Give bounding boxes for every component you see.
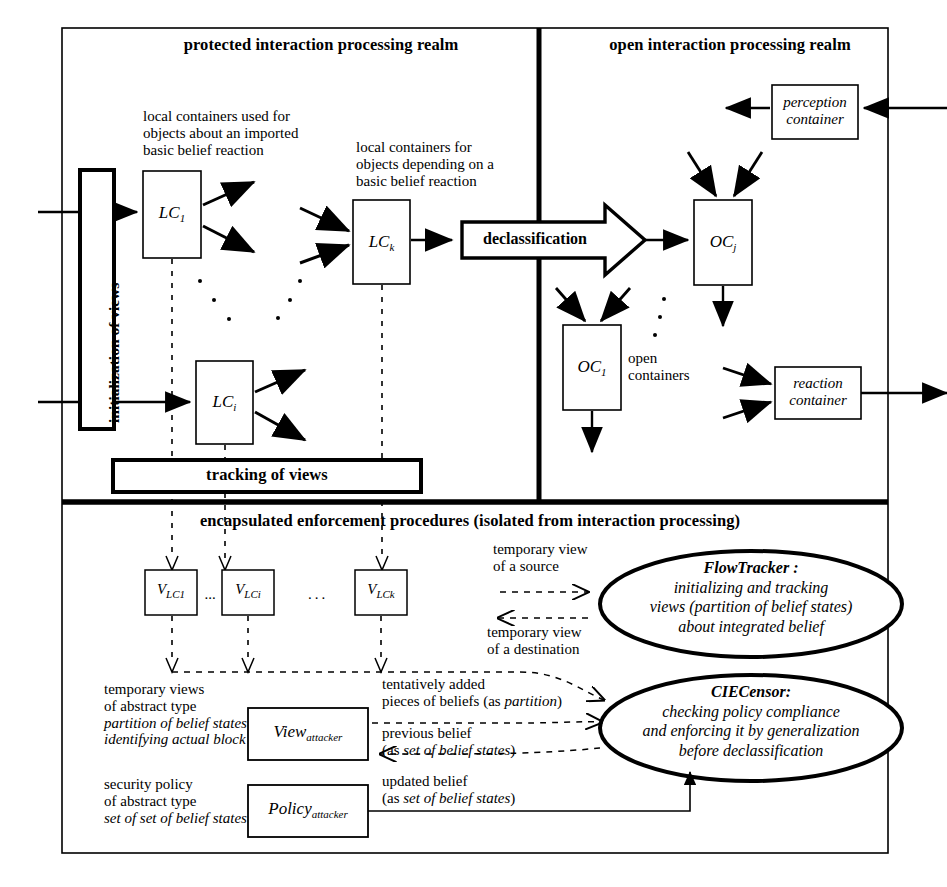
annotation-updated-belief: updated belief (as set of belief states) (382, 773, 612, 807)
arrowhead-vlc1-down (166, 658, 178, 672)
open-realm-title: open interaction processing realm (570, 36, 890, 54)
dot-decor-5 (288, 298, 292, 302)
label-policy-attacker: Policyattacker (248, 799, 368, 821)
label-vlci: VLCi (222, 581, 274, 600)
ellipsis-vlc-1: ... (198, 586, 222, 603)
arrow-into-oc1-right (601, 288, 630, 321)
arrowhead-lc1-view (166, 556, 178, 570)
arrowhead-vlck-down (375, 658, 387, 672)
initialization-of-views-label: initialization of views (105, 283, 122, 423)
label-lck: LCk (353, 232, 410, 254)
flowtracker-content: FlowTracker : initializing and tracking … (600, 558, 902, 636)
label-perception-container: perception container (772, 94, 858, 128)
dot-decor-2 (212, 298, 216, 302)
dot-decor-4 (298, 279, 302, 283)
annotation-local-containers-depending: local containers for objects depending o… (356, 139, 541, 189)
dot-decor-9 (653, 333, 657, 337)
annotation-previous-belief: previous belief (as set of belief states… (382, 725, 612, 759)
arrow-into-ocj-right (734, 152, 762, 196)
label-oc1: OC1 (563, 357, 621, 379)
declassification-label: declassification (470, 230, 600, 248)
annotation-open-containers: open containers (628, 350, 738, 384)
diagram-canvas: protected interaction processing realm o… (0, 0, 947, 887)
arrow-lci-out-lower (255, 412, 305, 440)
dot-decor-3 (227, 317, 231, 321)
arrow-lci-out-upper (255, 370, 305, 392)
arrow-into-oc1-left (556, 288, 585, 321)
arrow-into-ocj-left (688, 152, 716, 196)
arrow-into-reaction-lower (723, 402, 771, 418)
arrowhead-lck-view (376, 556, 388, 570)
dot-decor-7 (662, 297, 666, 301)
label-lc1: LC1 (143, 203, 201, 225)
arrow-into-lck-upper (300, 208, 349, 231)
ellipsis-vlc-2: ... (283, 586, 353, 603)
ciecensor-content: CIECensor: checking policy compliance an… (600, 682, 902, 760)
label-ocj: OCj (694, 232, 752, 254)
dot-decor-8 (658, 315, 662, 319)
label-vlc1: VLC1 (145, 581, 197, 600)
arrow-lc1-out-lower (203, 226, 254, 252)
protected-realm-title: protected interaction processing realm (171, 36, 471, 54)
annotation-tentatively-added: tentatively added pieces of beliefs (as … (382, 676, 622, 710)
arrow-lc1-out-upper (203, 182, 254, 205)
tracking-of-views-label: tracking of views (113, 466, 421, 484)
label-reaction-container: reaction container (775, 375, 861, 409)
annotation-local-containers-imported: local containers used for objects about … (143, 108, 358, 158)
dot-decor-1 (198, 279, 202, 283)
arrowhead-vlci-down (242, 658, 254, 672)
label-view-attacker: Viewattacker (248, 722, 368, 744)
arrowhead-lci-view (219, 556, 231, 570)
label-lci: LCi (196, 392, 253, 414)
label-vlck: VLCk (355, 581, 407, 600)
arrow-into-lck-lower (300, 245, 349, 263)
dot-decor-6 (276, 316, 280, 320)
enforcement-realm-title: encapsulated enforcement procedures (iso… (160, 512, 780, 530)
dashed-previous-belief (372, 722, 602, 723)
